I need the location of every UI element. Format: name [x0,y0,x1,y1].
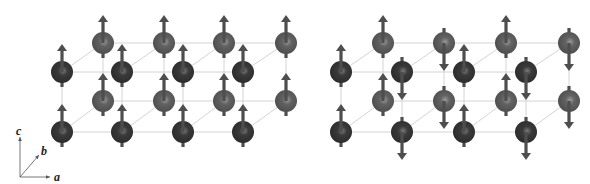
front-atom [515,117,537,160]
front-atom [391,117,413,160]
front-atom [51,104,73,147]
spin-down-arrow-icon [564,122,574,129]
back-atom [92,15,114,58]
spin-down-arrow-icon [564,64,574,71]
spin-up-arrow-icon [117,104,127,111]
spin-up-arrow-icon [336,104,346,111]
spin-up-arrow-icon [159,15,169,22]
back-atom [213,15,235,58]
front-atom [51,44,73,87]
front-atom [172,44,194,87]
back-atom [433,86,455,129]
back-atom [213,73,235,116]
back-atom [495,15,517,58]
back-atom [153,73,175,116]
lattice-bonds [62,43,569,132]
spin-up-arrow-icon [98,15,108,22]
spin-down-arrow-icon [439,122,449,129]
spin-up-arrow-icon [281,73,291,80]
back-atom [275,15,297,58]
spin-down-arrow-icon [439,64,449,71]
back-atom [495,73,517,116]
spin-up-arrow-icon [219,73,229,80]
front-atom [453,104,475,147]
front-atom [111,44,133,87]
spin-up-arrow-icon [238,104,248,111]
front-atom [330,44,352,87]
axis-label-a: a [54,171,60,183]
back-atom [433,28,455,71]
front-atom [232,44,254,87]
spin-up-arrow-icon [281,15,291,22]
back-atom [153,15,175,58]
axis-label-c: c [16,125,21,137]
spin-up-arrow-icon [219,15,229,22]
spin-up-arrow-icon [501,15,511,22]
spin-down-arrow-icon [397,93,407,100]
spin-up-arrow-icon [459,44,469,51]
back-atom [275,73,297,116]
back-atom [558,28,580,71]
spin-down-arrow-icon [397,153,407,160]
spin-up-arrow-icon [178,44,188,51]
back-atom [372,15,394,58]
spin-up-arrow-icon [378,15,388,22]
back-atom [92,73,114,116]
back-atom [558,86,580,129]
front-atom [515,57,537,100]
back-atom [372,73,394,116]
axis-label-b: b [41,145,47,157]
spin-up-arrow-icon [178,104,188,111]
spin-up-arrow-icon [159,73,169,80]
axis-b [20,155,39,177]
spin-up-arrow-icon [98,73,108,80]
spin-up-arrow-icon [501,73,511,80]
spin-down-arrow-icon [521,93,531,100]
front-atom [111,104,133,147]
front-atom [330,104,352,147]
spin-structure-figure: c b a [0,0,590,184]
spin-up-arrow-icon [336,44,346,51]
spin-up-arrow-icon [459,104,469,111]
spin-up-arrow-icon [117,44,127,51]
front-atom [172,104,194,147]
spin-up-arrow-icon [378,73,388,80]
front-atom [453,44,475,87]
lattice-diagram [0,0,590,184]
front-atom [391,57,413,100]
front-atom [232,104,254,147]
spin-up-arrow-icon [238,44,248,51]
spin-up-arrow-icon [57,44,67,51]
spin-down-arrow-icon [521,153,531,160]
spin-up-arrow-icon [57,104,67,111]
axis-arrowhead-icon [46,175,50,179]
